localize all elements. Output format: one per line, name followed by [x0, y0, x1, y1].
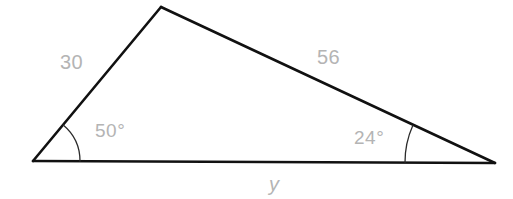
base-variable-label: y [269, 174, 280, 194]
angle-measure-label-left: 50° [95, 121, 125, 140]
angle-measure-label-right: 24° [354, 128, 384, 147]
left-angle-arc [63, 125, 80, 161]
triangle-figure [0, 0, 513, 199]
triangle-diagram: 30 56 50° 24° y [0, 0, 513, 199]
triangle-edge-base [33, 161, 495, 163]
side-length-label-left: 30 [60, 52, 83, 72]
right-angle-arc [405, 125, 413, 162]
side-length-label-right: 56 [317, 47, 340, 67]
triangle-edge-right [161, 7, 495, 163]
